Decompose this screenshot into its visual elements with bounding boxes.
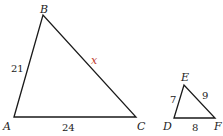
vertex-label-d: D xyxy=(162,120,172,133)
vertex-label-f: F xyxy=(213,120,222,133)
vertex-label-c: C xyxy=(137,120,146,133)
triangle-abc xyxy=(14,15,136,117)
vertex-label-e: E xyxy=(180,71,189,84)
vertex-label-b: B xyxy=(39,3,48,16)
side-label-ef: 9 xyxy=(202,90,208,101)
side-label-ac: 24 xyxy=(62,122,75,133)
side-label-ab: 21 xyxy=(11,63,24,74)
side-label-bc: x xyxy=(91,54,98,67)
vertex-label-a: A xyxy=(2,120,11,133)
triangle-def xyxy=(174,85,215,118)
side-label-df: 8 xyxy=(192,122,198,133)
figure: B A C 21 24 x E D F 7 8 9 xyxy=(0,0,223,136)
side-label-de: 7 xyxy=(170,94,176,105)
